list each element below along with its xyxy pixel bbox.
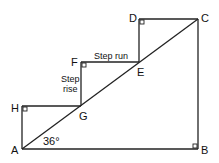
step-run-label: Step run <box>94 51 128 61</box>
right-angle-h-icon <box>23 107 27 111</box>
label-c: C <box>201 12 209 24</box>
label-e: E <box>137 66 144 78</box>
label-f: F <box>71 56 78 68</box>
label-g: G <box>79 110 88 122</box>
step-rise-label-line1: Step <box>61 74 80 84</box>
segment-ac <box>22 19 198 149</box>
angle-label: 36° <box>43 135 60 147</box>
label-b: B <box>201 144 208 156</box>
label-h: H <box>11 102 19 114</box>
step-rise-label-line2: rise <box>63 84 78 94</box>
staircase-diagram: A B C D E F G H Step run Step rise 36° <box>0 0 219 163</box>
right-angle-d-icon <box>140 20 144 24</box>
label-d: D <box>129 12 137 24</box>
right-angle-b-icon <box>193 144 197 148</box>
right-angle-f-icon <box>82 63 86 67</box>
label-a: A <box>11 144 19 156</box>
